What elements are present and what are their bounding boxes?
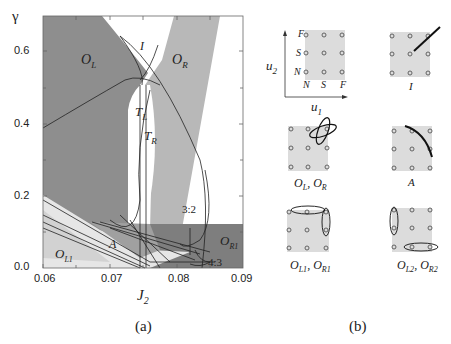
region-OR1: OR1 — [220, 233, 238, 251]
col-label-S: S — [321, 79, 326, 90]
row-label-F: F — [298, 28, 304, 39]
xtick-0.09: 0.09 — [231, 272, 252, 284]
row-label-N: N — [294, 66, 301, 77]
state-diagrams — [283, 27, 440, 252]
ratio-3-2: 3:2 — [182, 203, 196, 215]
cell-label-OL1-OR1: OL1, OR1 — [290, 258, 331, 274]
cell-label-I: I — [409, 80, 413, 92]
axis-u1: u1 — [311, 99, 322, 117]
x-axis-label: J2 — [137, 287, 149, 306]
ytick-0.2: 0.2 — [14, 189, 29, 201]
cell-label-A: A — [408, 176, 415, 188]
ytick-0.6: 0.6 — [14, 44, 29, 56]
ytick-0.0: 0.0 — [14, 260, 29, 272]
region-TL: TL — [135, 104, 147, 122]
cell-label-OL-OR: OL, OR — [294, 176, 327, 192]
region-A: A — [109, 237, 116, 252]
region-OL: OL — [81, 52, 96, 70]
row-label-S: S — [296, 47, 301, 58]
xtick-0.08: 0.08 — [168, 272, 189, 284]
caption-a: (a) — [135, 318, 152, 335]
region-OL1: OL1 — [55, 246, 73, 264]
col-label-F: F — [340, 79, 346, 90]
caption-b: (b) — [349, 318, 367, 335]
xtick-0.06: 0.06 — [34, 272, 55, 284]
ratio-4-3: 4:3 — [208, 256, 222, 268]
xtick-0.07: 0.07 — [101, 272, 122, 284]
region-I: I — [140, 39, 144, 54]
y-axis-label: γ — [12, 8, 19, 25]
figure-canvas — [0, 0, 451, 344]
axis-u2: u2 — [266, 58, 277, 76]
ytick-0.4: 0.4 — [14, 117, 29, 129]
cell-label-OL2-OR2: OL2, OR2 — [397, 258, 438, 274]
col-label-N: N — [303, 79, 310, 90]
region-TR: TR — [144, 128, 157, 146]
region-OR: OR — [172, 52, 188, 70]
